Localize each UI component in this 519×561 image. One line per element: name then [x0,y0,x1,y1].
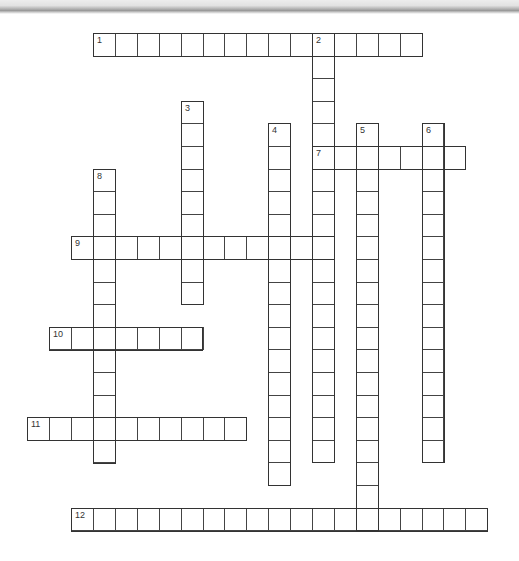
crossword-cell[interactable] [378,508,401,531]
crossword-cell[interactable]: 9 [71,236,94,260]
crossword-cell[interactable] [268,33,291,57]
crossword-cell[interactable] [268,191,291,215]
crossword-cell[interactable] [268,236,291,260]
crossword-cell[interactable] [290,236,313,260]
crossword-cell[interactable] [443,146,466,170]
crossword-cell[interactable] [356,214,379,237]
crossword-cell[interactable]: 1 [93,33,116,57]
crossword-cell[interactable] [93,372,116,396]
crossword-cell[interactable] [268,395,291,418]
crossword-cell[interactable]: 11 [27,417,50,441]
crossword-cell[interactable] [422,349,444,373]
crossword-cell[interactable] [356,282,379,305]
crossword-cell[interactable] [356,485,379,509]
crossword-cell[interactable] [203,33,225,57]
crossword-cell[interactable] [422,395,444,418]
crossword-cell[interactable] [137,417,160,441]
crossword-cell[interactable] [181,146,204,170]
crossword-cell[interactable]: 12 [71,508,94,531]
crossword-cell[interactable] [422,236,444,260]
crossword-cell[interactable] [93,304,116,328]
crossword-cell[interactable]: 7 [312,146,335,170]
crossword-cell[interactable] [93,395,116,418]
crossword-cell[interactable] [246,508,269,531]
crossword-cell[interactable] [268,417,291,441]
crossword-cell[interactable] [422,440,444,463]
crossword-cell[interactable] [290,33,313,57]
crossword-cell[interactable] [93,349,116,373]
crossword-cell[interactable] [181,508,204,531]
crossword-cell[interactable] [93,236,116,260]
crossword-cell[interactable] [181,214,204,237]
crossword-cell[interactable] [400,508,423,531]
crossword-cell[interactable] [181,236,204,260]
crossword-cell[interactable] [356,327,379,350]
crossword-cell[interactable] [356,191,379,215]
crossword-cell[interactable] [312,304,335,328]
crossword-cell[interactable] [312,214,335,237]
crossword-cell[interactable] [356,304,379,328]
crossword-cell[interactable] [422,259,444,283]
crossword-cell[interactable] [422,282,444,305]
crossword-cell[interactable] [312,349,335,373]
crossword-cell[interactable] [422,327,444,350]
crossword-cell[interactable] [137,327,160,350]
crossword-cell[interactable] [334,508,357,531]
crossword-cell[interactable] [93,191,116,215]
crossword-cell[interactable] [312,169,335,192]
crossword-cell[interactable] [290,508,313,531]
crossword-cell[interactable] [356,417,379,441]
crossword-cell[interactable] [312,327,335,350]
crossword-cell[interactable]: 3 [181,101,204,124]
crossword-cell[interactable] [422,417,444,441]
crossword-cell[interactable] [137,236,160,260]
crossword-cell[interactable]: 10 [49,327,72,350]
crossword-cell[interactable] [224,236,247,260]
crossword-cell[interactable] [422,508,444,531]
crossword-cell[interactable] [268,304,291,328]
crossword-cell[interactable] [356,462,379,486]
crossword-cell[interactable] [159,327,182,350]
crossword-cell[interactable] [246,236,269,260]
crossword-cell[interactable] [137,508,160,531]
crossword-cell[interactable] [312,56,335,79]
crossword-cell[interactable] [356,33,379,57]
crossword-cell[interactable] [312,101,335,124]
crossword-cell[interactable] [356,349,379,373]
crossword-cell[interactable] [400,33,423,57]
crossword-cell[interactable] [181,417,204,441]
crossword-cell[interactable] [268,508,291,531]
crossword-cell[interactable] [159,417,182,441]
crossword-cell[interactable] [312,372,335,396]
crossword-cell[interactable] [312,440,335,463]
crossword-cell[interactable] [93,440,116,463]
crossword-cell[interactable] [312,508,335,531]
crossword-cell[interactable] [422,191,444,215]
crossword-cell[interactable] [400,146,423,170]
crossword-cell[interactable] [159,508,182,531]
crossword-cell[interactable] [203,508,225,531]
crossword-cell[interactable] [356,440,379,463]
crossword-cell[interactable] [312,417,335,441]
crossword-cell[interactable] [181,327,204,350]
crossword-cell[interactable] [93,259,116,283]
crossword-cell[interactable]: 5 [356,123,379,147]
crossword-cell[interactable] [312,236,335,260]
crossword-cell[interactable] [71,417,94,441]
crossword-cell[interactable] [422,372,444,396]
crossword-cell[interactable] [159,236,182,260]
crossword-cell[interactable] [224,508,247,531]
crossword-cell[interactable] [181,123,204,147]
crossword-cell[interactable] [356,395,379,418]
crossword-cell[interactable] [268,462,291,486]
crossword-cell[interactable] [137,33,160,57]
crossword-cell[interactable] [312,191,335,215]
crossword-cell[interactable] [312,259,335,283]
crossword-cell[interactable] [356,236,379,260]
crossword-cell[interactable] [378,146,401,170]
crossword-cell[interactable] [422,214,444,237]
crossword-cell[interactable] [378,33,401,57]
crossword-cell[interactable] [93,417,116,441]
crossword-cell[interactable] [422,146,444,170]
crossword-cell[interactable] [181,169,204,192]
